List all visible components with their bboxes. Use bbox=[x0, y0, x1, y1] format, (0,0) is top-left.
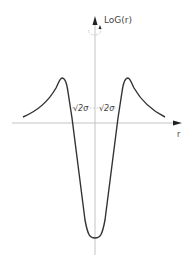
y-axis-label: LoG(r) bbox=[104, 15, 132, 25]
y-axis-arrow-icon bbox=[93, 16, 98, 25]
log-diagram: LoG(r) r √2σ √2σ bbox=[0, 0, 193, 262]
x-axis-label: r bbox=[177, 130, 181, 139]
rotation-arrow-icon bbox=[99, 25, 102, 29]
right-crossing-label: √2σ bbox=[99, 104, 115, 113]
x-axis-arrow-icon bbox=[173, 121, 182, 126]
log-curve bbox=[23, 78, 165, 238]
left-crossing-label: √2σ bbox=[73, 104, 89, 113]
